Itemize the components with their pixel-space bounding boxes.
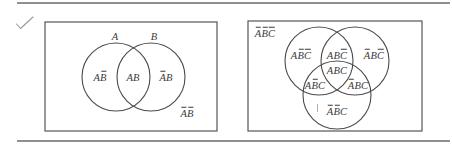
region-b-c-not-a: ABC: [348, 79, 368, 92]
region-a-not-b: AB: [93, 71, 106, 84]
set-letter: A: [255, 27, 262, 40]
set-letter: B: [187, 107, 194, 120]
set-letter: C: [268, 27, 275, 40]
region-a-and-b-not-c: ABC: [327, 49, 347, 62]
set-letter: B: [133, 71, 140, 84]
set-letter: B: [100, 71, 107, 84]
set-letter: C: [304, 49, 311, 62]
set-letter: A: [327, 105, 334, 118]
region-a-c-not-b: ABC: [305, 79, 325, 92]
set-letter: B: [333, 49, 340, 62]
set-letter: B: [354, 79, 361, 92]
set-letter: C: [340, 64, 347, 77]
set-letter: C: [318, 79, 325, 92]
set-letter: A: [348, 79, 355, 92]
set-letter: A: [305, 79, 312, 92]
region-not-a-b: AB: [159, 71, 172, 84]
region-b-only: ABC: [364, 49, 384, 62]
set-letter: A: [327, 49, 334, 62]
set-letter: B: [333, 105, 340, 118]
set-letter: B: [370, 49, 377, 62]
region-not-a-not-b: AB: [180, 107, 193, 120]
set-letter: A: [159, 71, 166, 84]
set-letter: A: [327, 64, 334, 77]
region-a-only: ABC: [291, 49, 311, 62]
set-letter: A: [291, 49, 298, 62]
set-letter: A: [126, 71, 133, 84]
check-mark-icon: [15, 15, 35, 31]
region-a-b-c: ABC: [327, 64, 347, 77]
set-letter: A: [93, 71, 100, 84]
set-letter: C: [340, 49, 347, 62]
set-letter: B: [166, 71, 173, 84]
set-letter: C: [340, 105, 347, 118]
set-letter: A: [180, 107, 187, 120]
set-letter: C: [361, 79, 368, 92]
set-letter: A: [364, 49, 371, 62]
set-label-b: B: [151, 32, 158, 43]
set-letter: B: [333, 64, 340, 77]
figure-canvas: [0, 0, 452, 144]
region-a-and-b: AB: [126, 71, 139, 84]
region-none: ABC: [255, 27, 275, 40]
set-letter: B: [261, 27, 268, 40]
set-letter: B: [311, 79, 318, 92]
set-letter: C: [377, 49, 384, 62]
region-c-only: ABC: [327, 105, 347, 118]
set-letter: B: [297, 49, 304, 62]
circle-a: [82, 43, 150, 111]
set-label-a: A: [112, 32, 119, 43]
